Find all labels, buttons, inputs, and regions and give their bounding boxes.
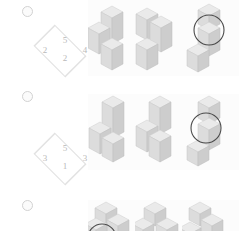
isometric-figure[interactable]: [182, 200, 232, 231]
isometric-figure[interactable]: [88, 94, 138, 170]
circle-marker-icon: [22, 6, 33, 17]
isometric-figure-annotated[interactable]: [182, 0, 232, 76]
diamond-number-group: 5 2 4 2: [36, 32, 94, 68]
diamond-number-top: 5: [60, 143, 70, 153]
isometric-figure[interactable]: [135, 94, 185, 170]
figure-panel: [88, 200, 239, 231]
isometric-figure-annotated[interactable]: [182, 94, 232, 170]
isometric-figure[interactable]: [135, 200, 185, 231]
diamond-number-bottom: 1: [60, 161, 70, 171]
circle-marker-icon: [22, 200, 33, 211]
isometric-figure-annotated[interactable]: [88, 200, 138, 231]
puzzle-row: [0, 186, 239, 231]
puzzle-row: 5 3 3 1: [0, 78, 239, 154]
figure-panel: [88, 94, 239, 170]
diamond-number-bottom: 2: [60, 53, 70, 63]
isometric-figure[interactable]: [88, 0, 138, 76]
figure-panel: [88, 0, 239, 76]
isometric-figure[interactable]: [135, 0, 185, 76]
worksheet-sheet: 5 2 4 2: [0, 0, 239, 231]
circle-marker-icon: [22, 91, 33, 102]
puzzle-row: 5 2 4 2: [0, 0, 239, 76]
diamond-number-group: 5 3 3 1: [36, 140, 94, 176]
diamond-number-left: 2: [40, 45, 50, 55]
diamond-number-top: 5: [60, 35, 70, 45]
diamond-number-left: 3: [40, 153, 50, 163]
